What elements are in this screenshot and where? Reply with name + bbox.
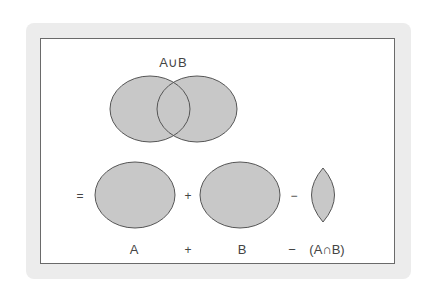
set-a-shape (95, 162, 175, 228)
intersection-lens-shape (312, 168, 335, 222)
equals-sign: = (76, 189, 83, 203)
venn-diagram: A∪B = + − A + B − (A∩B) (0, 0, 433, 294)
set-b-shape (200, 162, 280, 228)
union-title: A∪B (159, 55, 186, 70)
union-venn (110, 76, 237, 142)
label-a: A (130, 242, 139, 257)
label-minus: − (288, 242, 296, 257)
label-intersection: (A∩B) (309, 242, 344, 257)
plus-sign: + (184, 189, 191, 203)
minus-sign: − (290, 189, 297, 203)
label-b: B (238, 242, 247, 257)
label-plus: + (184, 243, 191, 257)
